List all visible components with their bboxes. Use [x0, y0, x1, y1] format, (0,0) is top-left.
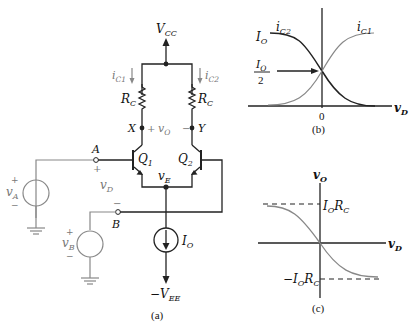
resistor-rc-left — [139, 84, 145, 128]
rc-left-label: RC — [120, 92, 136, 108]
caption-a: (a) — [151, 309, 164, 322]
node-y-label: Y — [198, 122, 207, 135]
b-vd-label: vD — [394, 101, 408, 117]
vee-arrow-icon — [163, 276, 170, 284]
vo-minus: − — [182, 123, 190, 134]
terminal-a-label: A — [91, 143, 100, 156]
vo-plus: + — [147, 123, 155, 134]
vd-minus: − — [113, 198, 121, 209]
b-origin-label: 0 — [319, 110, 325, 122]
differential-pair-figure: VCC iC1 iC2 RC RC X Y + vO − Q1 — [0, 0, 413, 324]
vd-label: vD — [100, 178, 114, 194]
vo-curve — [267, 206, 378, 277]
caption-c: (c) — [312, 302, 325, 315]
ve-label: vE — [158, 169, 171, 185]
chart-b: IO iC2 iC1 IO 2 0 vD (b) — [248, 8, 408, 136]
va-plus: + — [11, 175, 19, 185]
resistor-rc-right — [189, 84, 195, 128]
b-io-label: IO — [255, 30, 268, 46]
c-lower-label: −IORC — [283, 272, 320, 288]
top-rail — [142, 64, 192, 95]
vee-label: −VEE — [150, 287, 181, 303]
vcc-label: VCC — [156, 22, 177, 38]
c-upper-label: IORC — [322, 199, 349, 215]
b-mid-denominator: 2 — [258, 74, 264, 86]
circuit-a: VCC iC1 iC2 RC RC X Y + vO − Q1 — [6, 22, 222, 322]
io-arrow-icon — [163, 243, 170, 250]
vb-minus: − — [66, 251, 74, 261]
node-x-label: X — [127, 122, 137, 135]
terminal-b — [116, 210, 121, 215]
b-ic2-label: iC2 — [276, 20, 291, 36]
b-ic1-label: iC1 — [357, 20, 372, 36]
b-midpoint-arrow-icon — [311, 68, 319, 74]
c-vd-label: vD — [388, 237, 402, 253]
vcc-arrow-icon — [163, 38, 170, 46]
io-label: IO — [181, 234, 194, 250]
vo-label: vO — [158, 122, 170, 137]
terminal-b-label: B — [111, 218, 120, 231]
vcc-node — [164, 62, 169, 67]
va-label: vA — [6, 185, 19, 201]
ic2-arrow-icon — [198, 78, 203, 84]
b-mid-numerator: IO — [255, 58, 267, 73]
q2-label: Q2 — [178, 152, 193, 168]
c-vo-label: vO — [313, 168, 327, 184]
source-vb — [77, 231, 103, 257]
chart-c: vO vD IORC −IORC (c) — [258, 168, 402, 315]
q1-collector — [134, 145, 142, 152]
terminal-a — [94, 158, 99, 163]
ic1-label: iC1 — [112, 69, 126, 84]
vd-plus: + — [93, 163, 101, 174]
source-a-wire — [36, 160, 93, 218]
q1-label: Q1 — [138, 152, 153, 168]
caption-b: (b) — [312, 123, 325, 136]
q2-collector — [192, 145, 200, 152]
ic2-label: iC2 — [205, 69, 219, 84]
va-minus: − — [11, 200, 19, 210]
rc-right-label: RC — [197, 92, 213, 108]
vb-label: vB — [62, 236, 75, 252]
ic1-arrow-icon — [130, 78, 135, 84]
